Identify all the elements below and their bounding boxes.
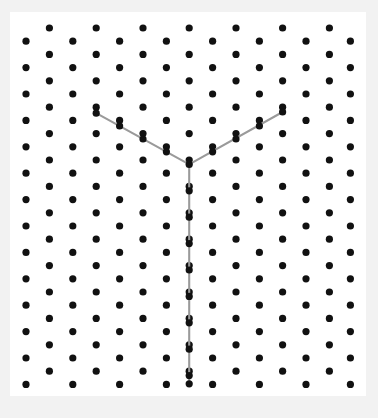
lattice-dot	[209, 222, 216, 229]
lattice-dot	[116, 328, 123, 335]
lattice-dot-on-path	[93, 110, 100, 117]
lattice-dot	[116, 275, 123, 282]
lattice-dot	[279, 236, 286, 243]
lattice-dot	[347, 170, 354, 177]
lattice-dot	[46, 262, 53, 269]
lattice-dot	[69, 38, 76, 45]
lattice-dot	[116, 249, 123, 256]
lattice-dot	[69, 64, 76, 71]
plot-background	[10, 12, 366, 396]
lattice-dot	[232, 288, 239, 295]
lattice-dot	[326, 236, 333, 243]
lattice-dot	[232, 341, 239, 348]
lattice-dot	[279, 288, 286, 295]
lattice-dot	[46, 104, 53, 111]
lattice-dot	[22, 38, 29, 45]
lattice-dot-on-path	[186, 240, 193, 247]
lattice-dot	[93, 315, 100, 322]
lattice-dot	[69, 275, 76, 282]
lattice-dot	[186, 51, 193, 58]
lattice-dot	[232, 262, 239, 269]
lattice-dot	[326, 368, 333, 375]
lattice-dot	[232, 51, 239, 58]
lattice-dot	[347, 381, 354, 388]
lattice-dot	[302, 381, 309, 388]
lattice-dot	[22, 249, 29, 256]
lattice-dot-on-path	[163, 148, 170, 155]
lattice-dot	[256, 302, 263, 309]
lattice-dot	[186, 104, 193, 111]
lattice-dot-on-path	[186, 187, 193, 194]
lattice-dot	[116, 354, 123, 361]
lattice-dot	[347, 117, 354, 124]
lattice-dot	[139, 24, 146, 31]
lattice-dot	[22, 302, 29, 309]
lattice-dot	[139, 341, 146, 348]
lattice-dot	[209, 196, 216, 203]
lattice-dot	[93, 341, 100, 348]
lattice-dot-on-path	[139, 135, 146, 142]
lattice-dot	[22, 222, 29, 229]
lattice-dot	[302, 90, 309, 97]
lattice-dot-on-path	[186, 293, 193, 300]
lattice-dot	[116, 38, 123, 45]
lattice-dot	[256, 249, 263, 256]
lattice-dot	[326, 24, 333, 31]
lattice-dot	[326, 156, 333, 163]
lattice-dot	[69, 381, 76, 388]
lattice-dot	[326, 288, 333, 295]
lattice-dot	[256, 64, 263, 71]
lattice-dot	[209, 170, 216, 177]
lattice-dot	[46, 368, 53, 375]
lattice-dot-on-path	[116, 122, 123, 129]
lattice-dot	[347, 196, 354, 203]
lattice-dot	[163, 275, 170, 282]
lattice-dot	[22, 90, 29, 97]
lattice-dot	[22, 143, 29, 150]
lattice-dot	[69, 90, 76, 97]
lattice-dot	[93, 368, 100, 375]
lattice-dot-on-path	[256, 122, 263, 129]
lattice-dot	[93, 24, 100, 31]
lattice-dot	[279, 368, 286, 375]
lattice-dot	[93, 77, 100, 84]
lattice-dot	[302, 117, 309, 124]
lattice-dot	[163, 170, 170, 177]
lattice-dot	[22, 381, 29, 388]
lattice-dot	[163, 38, 170, 45]
lattice-dot	[69, 117, 76, 124]
lattice-dot	[256, 381, 263, 388]
lattice-dot	[326, 77, 333, 84]
lattice-dot	[46, 51, 53, 58]
lattice-dot-on-path	[186, 214, 193, 221]
lattice-dot	[22, 117, 29, 124]
lattice-dot	[279, 156, 286, 163]
lattice-dot	[326, 104, 333, 111]
lattice-dot	[116, 381, 123, 388]
lattice-dot	[116, 143, 123, 150]
lattice-dot	[232, 156, 239, 163]
lattice-dot	[22, 275, 29, 282]
lattice-dot	[232, 209, 239, 216]
lattice-dot	[22, 170, 29, 177]
lattice-dot-on-path	[186, 346, 193, 353]
lattice-dot	[326, 183, 333, 190]
lattice-dot	[116, 64, 123, 71]
lattice-dot	[46, 236, 53, 243]
lattice-dot	[209, 249, 216, 256]
lattice-dot	[163, 328, 170, 335]
lattice-dot	[209, 117, 216, 124]
lattice-dot	[209, 90, 216, 97]
lattice-dot	[93, 51, 100, 58]
lattice-dot	[139, 209, 146, 216]
figure-root	[0, 0, 378, 418]
lattice-dot	[302, 196, 309, 203]
lattice-dot	[232, 24, 239, 31]
lattice-dot	[302, 143, 309, 150]
lattice-dot	[209, 275, 216, 282]
lattice-dot	[139, 77, 146, 84]
lattice-dot	[93, 130, 100, 137]
lattice-dot	[46, 288, 53, 295]
lattice-dot	[69, 249, 76, 256]
lattice-dot	[22, 196, 29, 203]
